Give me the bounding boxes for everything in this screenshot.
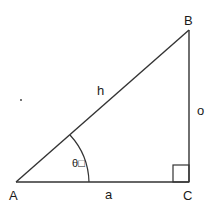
missing-glyph-box: □ — [78, 157, 85, 169]
adjacent-label: a — [105, 188, 112, 201]
hypotenuse-label: h — [97, 84, 104, 97]
opposite-label: o — [197, 104, 204, 117]
stray-dot — [20, 99, 22, 101]
vertex-b-label: B — [184, 14, 193, 27]
vertex-a-label: A — [9, 189, 18, 202]
angle-theta-label: θ□ — [72, 158, 85, 169]
right-angle-marker — [173, 165, 189, 182]
vertex-c-label: C — [183, 189, 192, 202]
side-h-line — [16, 30, 189, 182]
triangle-diagram — [0, 0, 215, 210]
